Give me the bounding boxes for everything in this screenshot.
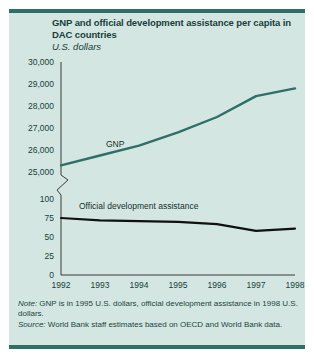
svg-text:1997: 1997 [247,280,266,290]
x-axis-ticks: 1992199319941995199619971998 [52,280,305,290]
svg-text:1998: 1998 [286,280,305,290]
svg-text:25,000: 25,000 [28,167,54,177]
source-line: Source: World Bank staff estimates based… [18,320,298,330]
gnp-series-line [61,88,295,165]
y-axis-upper-ticks: 25,00026,00027,00028,00029,00030,000 [28,57,54,177]
source-text: World Bank staff estimates based on OECD… [46,320,283,329]
note-line: Note: GNP is in 1995 U.S. dollars, offic… [18,299,298,320]
svg-text:1996: 1996 [208,280,227,290]
svg-text:75: 75 [45,213,55,223]
svg-text:0: 0 [49,270,54,280]
svg-text:1994: 1994 [130,280,149,290]
svg-text:27,000: 27,000 [28,123,54,133]
svg-text:1992: 1992 [52,280,71,290]
svg-text:28,000: 28,000 [28,101,54,111]
figure-notes: Note: GNP is in 1995 U.S. dollars, offic… [18,299,298,330]
oda-series-label: Official development assistance [79,201,199,211]
svg-text:30,000: 30,000 [28,57,54,67]
svg-text:29,000: 29,000 [28,79,54,89]
source-label: Source: [18,320,46,329]
figure-container: GNP and official development assistance … [0,0,314,364]
axis-break-zigzag [57,175,68,195]
svg-text:1995: 1995 [169,280,188,290]
svg-text:50: 50 [45,232,55,242]
chart-plot: 25,00026,00027,00028,00029,00030,000 025… [9,9,305,299]
note-label: Note: [18,299,37,308]
gnp-series-label: GNP [106,139,125,149]
oda-series-line [61,218,295,231]
svg-text:26,000: 26,000 [28,145,54,155]
svg-text:1993: 1993 [91,280,110,290]
note-text: GNP is in 1995 U.S. dollars, official de… [18,299,298,318]
y-axis-lower-ticks: 0255075100 [40,194,54,280]
svg-text:100: 100 [40,194,54,204]
bottom-rule [9,345,305,349]
svg-text:25: 25 [45,251,55,261]
